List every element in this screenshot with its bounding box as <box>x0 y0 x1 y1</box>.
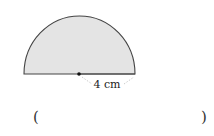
answer-close-paren: ) <box>201 108 207 126</box>
center-dot <box>77 72 81 76</box>
semicircle-shape <box>24 16 135 74</box>
radius-label: 4 cm <box>93 78 121 91</box>
answer-open-paren: ( <box>33 108 39 126</box>
answer-blank[interactable] <box>45 108 200 126</box>
